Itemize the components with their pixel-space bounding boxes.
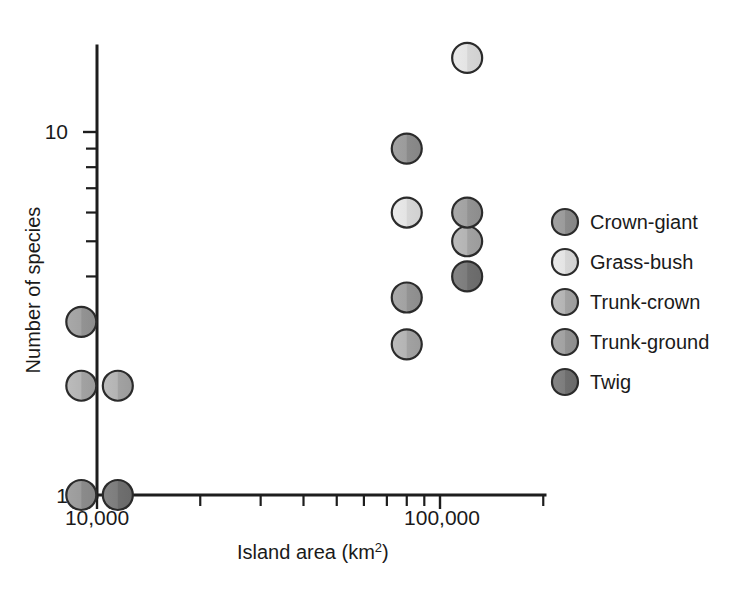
data-point-trunk-crown — [103, 371, 133, 401]
species-area-scatter-chart: 10 1 10,000 100,000 Number of species Is… — [0, 0, 739, 591]
x-axis-title-main: Island area (km — [237, 541, 375, 563]
legend-marker-trunk-crown-icon — [552, 289, 578, 315]
x-axis-title: Island area (km2) — [237, 540, 389, 563]
legend-item-crown-giant[interactable]: Crown-giant — [552, 209, 698, 235]
legend-item-grass-bush[interactable]: Grass-bush — [552, 249, 693, 275]
data-point-grass-bush — [452, 43, 482, 73]
data-point-grass-bush — [392, 198, 422, 228]
data-point-trunk-crown — [66, 371, 96, 401]
data-point-twig — [103, 480, 133, 510]
legend-item-trunk-ground[interactable]: Trunk-ground — [552, 329, 709, 355]
legend-marker-trunk-ground-icon — [552, 329, 578, 355]
legend-item-trunk-crown[interactable]: Trunk-crown — [552, 289, 700, 315]
data-point-trunk-crown — [392, 329, 422, 359]
data-point-crown-giant — [66, 480, 96, 510]
legend-label-trunk-ground: Trunk-ground — [590, 331, 709, 353]
legend-marker-twig-icon — [552, 369, 578, 395]
x-axis-title-close: ) — [382, 541, 389, 563]
x-tick-label-100000: 100,000 — [404, 506, 480, 529]
legend-label-crown-giant: Crown-giant — [590, 211, 698, 233]
y-axis-title: Number of species — [22, 207, 44, 374]
data-point-trunk-crown — [452, 226, 482, 256]
data-point-trunk-ground — [66, 307, 96, 337]
legend-label-trunk-crown: Trunk-crown — [590, 291, 700, 313]
legend-item-twig[interactable]: Twig — [552, 369, 631, 395]
data-point-trunk-ground — [392, 283, 422, 313]
x-axis-title-superscript: 2 — [375, 540, 382, 555]
legend-label-grass-bush: Grass-bush — [590, 251, 693, 273]
svg-text:Island area (km2): Island area (km2) — [237, 540, 389, 563]
data-point-twig — [452, 261, 482, 291]
y-tick-label-10: 10 — [45, 120, 68, 143]
legend-marker-grass-bush-icon — [552, 249, 578, 275]
legend-label-twig: Twig — [590, 371, 631, 393]
data-point-crown-giant — [392, 134, 422, 164]
data-point-trunk-ground — [452, 198, 482, 228]
legend-marker-crown-giant-icon — [552, 209, 578, 235]
